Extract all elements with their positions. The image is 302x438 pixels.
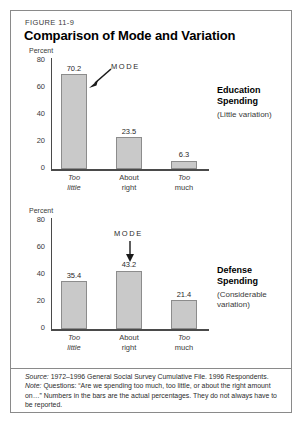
figure-container: FIGURE 11-9 Comparison of Mode and Varia… xyxy=(10,10,292,413)
footnote-source-label: Source: xyxy=(25,373,49,380)
y-axis-line xyxy=(51,218,52,330)
panel-title-education-line1: Education xyxy=(217,85,261,95)
chart-education-spending: Percent 80 60 40 20 0 70.2 23.5 6.3 Too … xyxy=(11,47,293,207)
mode-annotation-label: MODE xyxy=(111,62,140,71)
mode-arrow-diagonal-icon xyxy=(87,67,113,89)
bar-too-much xyxy=(171,300,197,329)
panel-subtitle-defense: (Considerable variation) xyxy=(217,290,295,309)
x-label-too-much: Too much xyxy=(161,333,207,352)
y-axis-title: Percent xyxy=(29,47,53,54)
footnote-note-label: Note: xyxy=(25,382,41,389)
y-tick-40: 40 xyxy=(19,110,45,118)
panel-title-defense-line1: Defense xyxy=(217,265,252,275)
y-tick-0: 0 xyxy=(19,324,45,332)
mode-arrow-down-icon xyxy=(124,241,136,263)
x-label-about-right-line1: About xyxy=(119,333,139,342)
x-label-too-much-line1: Too xyxy=(178,173,190,182)
y-tick-80: 80 xyxy=(19,216,45,224)
x-label-too-little-line1: Too xyxy=(68,173,80,182)
x-label-about-right: About right xyxy=(106,333,152,352)
bar-too-much xyxy=(171,161,197,170)
x-label-about-right-line1: About xyxy=(119,173,139,182)
x-label-about-right-line2: right xyxy=(122,183,137,192)
x-axis-line xyxy=(51,329,209,331)
bar-value-about-right: 23.5 xyxy=(109,127,149,136)
x-label-too-much-line1: Too xyxy=(178,333,190,342)
panel-title-defense-line2: Spending xyxy=(217,276,258,286)
panel-subtitle-education: (Little variation) xyxy=(217,110,295,120)
y-axis-line xyxy=(51,58,52,170)
y-axis-title: Percent xyxy=(29,207,53,214)
panel-title-education: Education Spending xyxy=(217,85,261,106)
x-label-too-much-line2: much xyxy=(175,343,193,352)
footnote-note-text: Questions: “Are we spending too much, to… xyxy=(25,382,277,408)
bar-value-too-much: 21.4 xyxy=(164,290,204,299)
footnote-divider xyxy=(11,368,291,369)
bar-about-right xyxy=(116,271,142,329)
x-label-too-much: Too much xyxy=(161,173,207,192)
footnote-source-text: 1972–1996 General Social Survey Cumulati… xyxy=(51,373,269,380)
figure-number: FIGURE 11-9 xyxy=(25,18,74,27)
bar-too-little xyxy=(61,74,87,169)
y-tick-80: 80 xyxy=(19,56,45,64)
bar-about-right xyxy=(116,137,142,169)
x-label-about-right-line2: right xyxy=(122,343,137,352)
y-tick-20: 20 xyxy=(19,297,45,305)
bar-too-little xyxy=(61,281,87,329)
bar-value-too-much: 6.3 xyxy=(164,150,204,159)
chart-defense-spending: Percent 80 60 40 20 0 35.4 43.2 21.4 Too… xyxy=(11,207,293,367)
y-tick-60: 60 xyxy=(19,243,45,251)
panel-title-defense: Defense Spending xyxy=(217,265,258,286)
x-label-too-little: Too little xyxy=(51,333,97,352)
x-label-too-little-line1: Too xyxy=(68,333,80,342)
y-tick-60: 60 xyxy=(19,83,45,91)
x-label-about-right: About right xyxy=(106,173,152,192)
x-axis-line xyxy=(51,169,209,171)
bar-value-too-little: 35.4 xyxy=(54,271,94,280)
footnote-block: Source: 1972–1996 General Social Survey … xyxy=(25,372,281,410)
x-label-too-little: Too little xyxy=(51,173,97,192)
y-tick-20: 20 xyxy=(19,137,45,145)
y-tick-40: 40 xyxy=(19,270,45,278)
x-label-too-little-line2: little xyxy=(67,343,80,352)
y-tick-0: 0 xyxy=(19,164,45,172)
x-label-too-much-line2: much xyxy=(175,183,193,192)
mode-annotation-label: MODE xyxy=(114,229,143,238)
figure-title: Comparison of Mode and Variation xyxy=(24,28,235,43)
panel-title-education-line2: Spending xyxy=(217,96,258,106)
x-label-too-little-line2: little xyxy=(67,183,80,192)
